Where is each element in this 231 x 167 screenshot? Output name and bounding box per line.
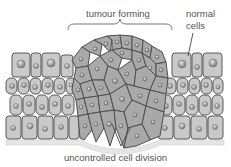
- tumour-forming-label: tumour forming: [86, 8, 150, 19]
- normal-cells-label-line2: cells: [186, 20, 205, 31]
- normal-cells-label-line1: normal: [186, 8, 215, 19]
- uncontrolled-division-label: uncontrolled cell division: [64, 152, 167, 163]
- tumour-brace: [68, 19, 172, 30]
- tumour-mass: [72, 35, 168, 148]
- normal-cells-pointer: [188, 33, 193, 56]
